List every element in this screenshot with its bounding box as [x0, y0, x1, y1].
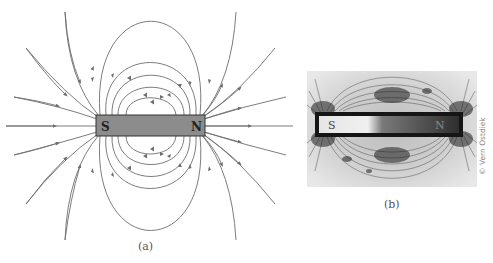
caption-a: (a): [138, 240, 153, 253]
photo-south-label: S: [328, 119, 336, 132]
iron-filings-photo: S N: [307, 71, 477, 187]
bar-magnet: [96, 115, 205, 136]
field-lines-svg: S N: [0, 0, 300, 240]
field-line-diagram: S N: [0, 0, 300, 240]
caption-b: (b): [384, 198, 400, 211]
photo-credit: © Vern Ostdiek: [478, 117, 487, 175]
south-pole-label: S: [101, 120, 110, 134]
iron-filings-svg: S N: [307, 71, 477, 187]
north-pole-label: N: [191, 120, 202, 134]
photo-north-label: N: [435, 119, 445, 132]
